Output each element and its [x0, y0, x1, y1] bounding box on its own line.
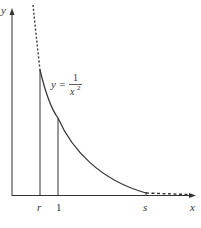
curve-dotted-upper: [33, 5, 40, 70]
curve-label-numerator: 1: [73, 72, 78, 83]
curve-dashed-tail: [146, 193, 188, 195]
curve-label: y = 1 x 2: [50, 72, 82, 97]
tick-label-r: r: [37, 201, 42, 213]
x-axis-arrow-icon: [189, 193, 196, 198]
x-axis-label: x: [189, 201, 195, 213]
y-axis-arrow-icon: [10, 8, 15, 15]
curve-label-denominator: x: [69, 86, 75, 97]
tick-label-s: s: [143, 201, 147, 213]
diagram-canvas: y x r 1 s y = 1 x 2: [0, 0, 201, 228]
curve-label-lhs: y =: [50, 78, 66, 90]
tick-label-one: 1: [56, 201, 62, 213]
y-axis-label: y: [0, 4, 6, 16]
curve-label-exponent: 2: [77, 84, 81, 92]
